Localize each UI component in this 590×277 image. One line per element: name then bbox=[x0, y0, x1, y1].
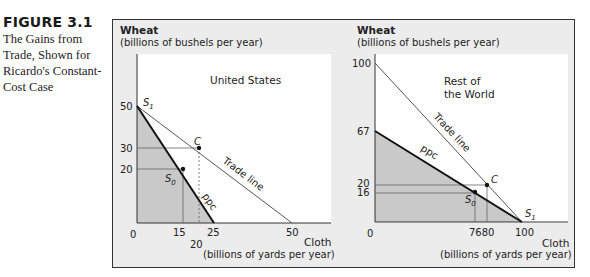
row-x-label: Cloth bbox=[542, 237, 569, 249]
us-x-label-sub: (billions of yards per year) bbox=[203, 249, 335, 260]
row-y-label-sub: (billions of bushels per year) bbox=[357, 37, 500, 48]
row-label-c: C bbox=[491, 174, 498, 185]
us-x-label: Cloth bbox=[304, 236, 331, 248]
us-point-s0 bbox=[181, 167, 185, 171]
row-point-s0 bbox=[473, 190, 477, 194]
us-x-tick-20: 20 bbox=[190, 239, 203, 250]
us-panel: Wheat (billions of bushels per year) Uni… bbox=[120, 24, 335, 260]
row-y-label: Wheat bbox=[357, 24, 395, 36]
row-y-tick-100: 100 bbox=[352, 58, 371, 69]
us-y-label: Wheat bbox=[120, 24, 158, 36]
us-x-tick-50: 50 bbox=[286, 227, 299, 238]
us-label-c: C bbox=[194, 136, 201, 147]
row-title-line2: the World bbox=[444, 88, 495, 100]
row-x-tick-76-80: 7680 bbox=[469, 227, 494, 238]
us-y-tick-20: 20 bbox=[120, 164, 133, 175]
us-x-tick-15: 15 bbox=[173, 227, 186, 238]
us-title: United States bbox=[210, 74, 281, 86]
us-x-tick-25: 25 bbox=[207, 227, 220, 238]
row-y-tick-16: 16 bbox=[357, 187, 370, 198]
us-y-tick-30: 30 bbox=[120, 143, 133, 154]
row-title-line1: Rest of bbox=[444, 75, 481, 87]
gains-from-trade-chart: Wheat (billions of bushels per year) Uni… bbox=[0, 0, 590, 277]
row-y-tick-67: 67 bbox=[357, 126, 370, 137]
row-x-label-sub: (billions of yards per year) bbox=[440, 249, 572, 260]
row-panel: Wheat (billions of bushels per year) Res… bbox=[352, 24, 572, 260]
row-point-c bbox=[485, 183, 489, 187]
us-x-tick-0: 0 bbox=[130, 229, 136, 240]
row-x-tick-100: 100 bbox=[515, 227, 534, 238]
us-y-label-sub: (billions of bushels per year) bbox=[120, 37, 263, 48]
row-x-tick-0: 0 bbox=[367, 228, 373, 239]
us-y-tick-50: 50 bbox=[120, 101, 133, 112]
